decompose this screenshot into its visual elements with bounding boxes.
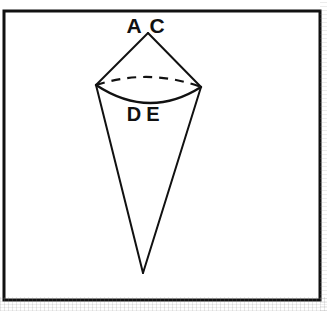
vertex-label-c: C (149, 14, 164, 37)
diagram-background (0, 0, 327, 311)
vertex-label-d: D (127, 103, 141, 125)
double-cone-diagram: A C D E (0, 0, 327, 311)
vertex-label-e: E (146, 103, 159, 125)
vertex-label-a: A (126, 14, 141, 37)
figure-root: A C D E (0, 0, 327, 311)
